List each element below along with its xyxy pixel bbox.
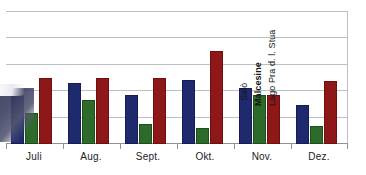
- bar: [310, 126, 323, 144]
- axis-tick: [291, 144, 292, 149]
- legend-label-lago-pra-d-l-stua: Lago Pra d. l. Stua: [267, 30, 277, 106]
- bar: [324, 81, 337, 144]
- x-axis-label-dez: Dez.: [291, 151, 347, 162]
- x-axis-label-aug: Aug.: [63, 151, 119, 162]
- bar: [68, 83, 81, 144]
- bar-groups: [6, 11, 348, 144]
- bar: [196, 128, 209, 144]
- x-axis-label-juli: Juli: [6, 151, 62, 162]
- bar: [296, 105, 309, 144]
- legend-label-malcesine: Malcesine: [253, 62, 263, 106]
- bar: [96, 78, 109, 145]
- axis-tick: [120, 144, 121, 149]
- bar: [210, 51, 223, 144]
- legend-label-salo: Salò: [239, 83, 249, 101]
- axis-tick: [234, 144, 235, 149]
- axis-tick: [347, 144, 348, 149]
- bar: [139, 124, 152, 144]
- axis-tick: [63, 144, 64, 149]
- bar: [153, 78, 166, 145]
- bar: [182, 80, 195, 144]
- x-axis-label-sept: Sept.: [120, 151, 176, 162]
- axis-tick: [177, 144, 178, 149]
- bar: [125, 95, 138, 144]
- bar: [25, 113, 38, 144]
- bar: [11, 95, 24, 144]
- plot-area: [6, 11, 348, 144]
- x-axis-label-nov: Nov.: [234, 151, 290, 162]
- x-axis-label-okt: Okt.: [177, 151, 233, 162]
- bar: [39, 78, 52, 145]
- axis-tick: [6, 144, 7, 149]
- bar-chart: Juli Aug. Sept. Okt. Nov. Dez. Salò Malc…: [0, 0, 366, 175]
- bar: [82, 100, 95, 144]
